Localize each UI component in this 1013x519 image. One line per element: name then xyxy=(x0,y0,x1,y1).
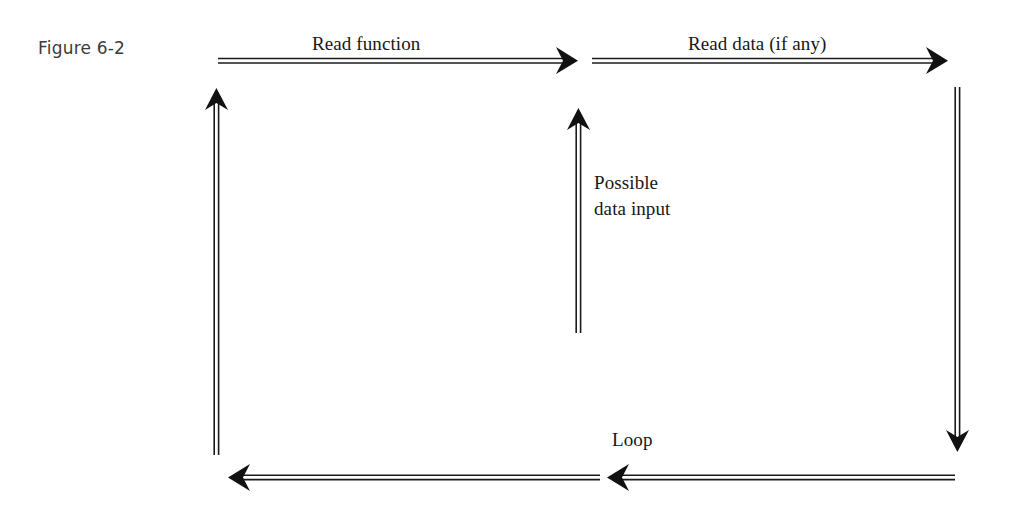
possible-data-input-label: Possible data input xyxy=(594,170,670,222)
loop-arrow-left-segment xyxy=(228,464,600,491)
left-return-arrow xyxy=(205,88,228,455)
loop-arrow-right-segment xyxy=(607,464,955,491)
arrowhead-left-icon xyxy=(607,464,629,491)
figure-caption: Figure 6-2 xyxy=(38,38,125,58)
arrowhead-up-icon xyxy=(567,108,590,130)
possible-data-input-label-line2: data input xyxy=(594,196,670,222)
arrowhead-up-icon xyxy=(205,88,228,110)
arrowhead-down-icon xyxy=(946,430,969,452)
right-descend-arrow xyxy=(946,87,969,452)
figure-canvas: Figure 6-2 Read function Read data (if a… xyxy=(0,0,1013,519)
arrowhead-left-icon xyxy=(228,464,250,491)
arrowhead-right-icon xyxy=(556,47,578,74)
possible-data-input-arrow xyxy=(567,108,590,333)
loop-label: Loop xyxy=(612,429,653,451)
flow-diagram xyxy=(0,0,1013,519)
read-data-label: Read data (if any) xyxy=(688,33,826,55)
arrowhead-right-icon xyxy=(926,47,948,74)
read-function-label: Read function xyxy=(312,33,420,55)
possible-data-input-label-line1: Possible xyxy=(594,170,670,196)
